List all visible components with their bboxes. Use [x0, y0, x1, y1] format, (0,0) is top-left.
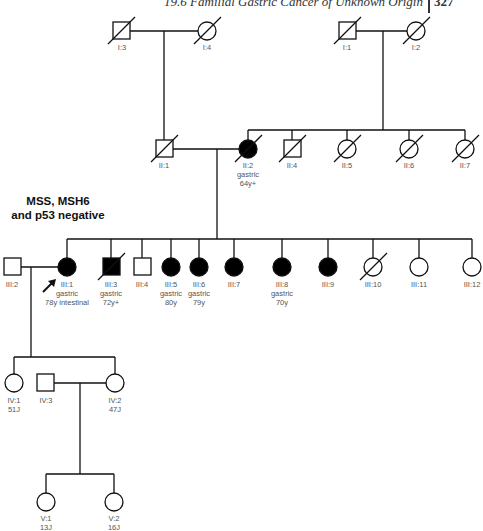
individual-III12: III:12 [463, 258, 481, 289]
annotation-line-1: MSS, MSH6 [26, 195, 89, 207]
diagnosis-label: gastric [100, 289, 122, 298]
individual-label: I:4 [203, 43, 211, 52]
individual-II1: II:1 [151, 135, 178, 170]
proband-arrow-icon [43, 279, 56, 292]
individual-I1: I:1 [334, 17, 361, 52]
pedigree-chart: I:3 I:4 I:1 I:2 II:1 II:2 gastric 64y+ I… [0, 0, 483, 531]
individual-label: III:5 [165, 280, 178, 289]
age-label: 78y intestinal [45, 298, 89, 307]
individual-V1: V:1 13J [37, 493, 55, 531]
individual-label: II:7 [460, 161, 470, 170]
female-circle-icon [463, 258, 481, 276]
individual-label: II:1 [159, 161, 169, 170]
male-square-icon [134, 258, 151, 275]
individual-label: III:3 [105, 280, 118, 289]
individual-label: III:9 [322, 280, 335, 289]
individual-III1: III:1 gastric 78y intestinal [43, 258, 89, 307]
affected-female-circle-icon [190, 258, 208, 276]
individual-III10: III:10 [360, 253, 387, 289]
individual-label: III:6 [193, 280, 206, 289]
age-label: 64y+ [240, 179, 257, 188]
affected-female-circle-icon [273, 258, 291, 276]
individual-label: III:10 [365, 280, 382, 289]
individual-III4: III:4 [134, 258, 151, 289]
male-square-icon [4, 258, 21, 275]
individual-III6: III:6 gastric 79y [188, 258, 210, 307]
individual-label: V:1 [41, 514, 52, 523]
individual-IV3: IV:3 [37, 374, 54, 405]
individual-II7: II:7 [452, 135, 479, 170]
individual-label: I:2 [412, 43, 420, 52]
individual-V2: V:2 16J [105, 493, 123, 531]
age-label: 47J [109, 405, 121, 414]
individual-label: IV:1 [7, 396, 20, 405]
age-label: 72y+ [103, 298, 120, 307]
annotation-line-2: and p53 negative [11, 209, 104, 221]
female-circle-icon [5, 374, 23, 392]
individual-label: IV:2 [108, 396, 121, 405]
female-circle-icon [105, 493, 123, 511]
individual-label: I:3 [118, 43, 126, 52]
individual-III9: III:9 [319, 258, 337, 289]
molecular-annotation: MSS, MSH6 and p53 negative [11, 195, 104, 221]
individual-label: II:6 [404, 161, 414, 170]
individual-III7: III:7 [225, 258, 243, 289]
diagnosis-label: gastric [188, 289, 210, 298]
individual-I4: I:4 [194, 17, 221, 52]
age-label: 51J [8, 405, 20, 414]
individual-III11: III:11 [410, 258, 428, 289]
individual-label: III:7 [228, 280, 241, 289]
individual-II2: II:2 gastric 64y+ [235, 135, 262, 188]
individual-label: III:12 [464, 280, 481, 289]
individual-label: II:2 [243, 161, 253, 170]
age-label: 70y [276, 298, 288, 307]
individual-label: II:4 [287, 161, 297, 170]
individual-II5: II:5 [334, 135, 361, 170]
affected-female-circle-icon [319, 258, 337, 276]
individual-III3: III:3 gastric 72y+ [98, 253, 125, 307]
age-label: 80y [165, 298, 177, 307]
individual-label: III:8 [276, 280, 289, 289]
affected-female-circle-icon [225, 258, 243, 276]
female-circle-icon [106, 374, 124, 392]
individual-label: III:11 [411, 280, 427, 289]
diagnosis-label: gastric [237, 170, 259, 179]
individual-label: III:1 [61, 280, 74, 289]
individual-I3: I:3 [108, 17, 135, 52]
individual-label: III:4 [136, 280, 149, 289]
individual-IV2: IV:2 47J [106, 374, 124, 414]
individual-II4: II:4 [279, 135, 306, 170]
female-circle-icon [410, 258, 428, 276]
individual-label: I:1 [343, 43, 351, 52]
individual-label: II:5 [342, 161, 352, 170]
affected-female-circle-icon [162, 258, 180, 276]
diagnosis-label: gastric [160, 289, 182, 298]
individual-label: IV:3 [39, 396, 52, 405]
female-circle-icon [37, 493, 55, 511]
individual-IV1: IV:1 51J [5, 374, 23, 414]
age-label: 16J [108, 523, 120, 531]
individual-I2: I:2 [403, 17, 430, 52]
individual-label: V:2 [109, 514, 120, 523]
individual-label: III:2 [6, 280, 19, 289]
individual-II6: II:6 [396, 135, 423, 170]
connector-lines [14, 31, 472, 493]
individual-III8: III:8 gastric 70y [271, 258, 293, 307]
diagnosis-label: gastric [56, 289, 78, 298]
age-label: 79y [193, 298, 205, 307]
diagnosis-label: gastric [271, 289, 293, 298]
male-square-icon [37, 374, 54, 391]
individual-III5: III:5 gastric 80y [160, 258, 182, 307]
affected-female-circle-icon [58, 258, 76, 276]
individual-III2: III:2 [4, 258, 21, 289]
age-label: 13J [40, 523, 52, 531]
